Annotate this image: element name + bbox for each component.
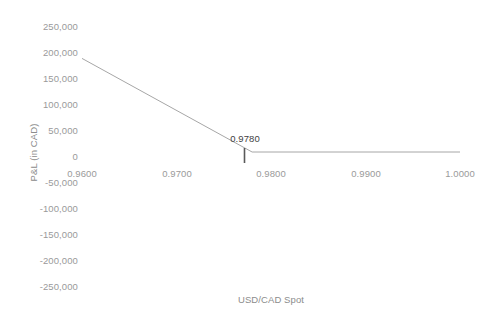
x-tick-label: 1.0000 [445, 168, 475, 179]
y-tick-label: 50,000 [4, 126, 78, 136]
x-tick-label: 0.9900 [351, 168, 381, 179]
plot-area [82, 14, 460, 302]
pnl-payoff-chart: P&L (in CAD) 250,000 200,000 150,000 100… [0, 0, 483, 321]
y-axis-tick-labels: 250,000 200,000 150,000 100,000 50,000 0… [0, 0, 78, 321]
x-axis-tick-labels: 0.9600 0.9700 0.9800 0.9900 1.0000 [0, 168, 483, 182]
strike-marker-icon [241, 148, 248, 164]
x-tick-label: 0.9700 [162, 168, 192, 179]
y-tick-label: 0 [4, 152, 78, 162]
series-line-pnl [82, 14, 460, 302]
pnl-line-path [82, 58, 460, 152]
y-tick-label: 250,000 [4, 22, 78, 32]
y-tick-label: -250,000 [4, 282, 78, 292]
y-tick-label: -100,000 [4, 204, 78, 214]
y-tick-label: 200,000 [4, 48, 78, 58]
y-tick-label: -150,000 [4, 230, 78, 240]
y-tick-label: 100,000 [4, 100, 78, 110]
x-tick-label: 0.9600 [67, 168, 97, 179]
strike-annotation-label: 0.9780 [230, 133, 260, 144]
x-tick-label: 0.9800 [256, 168, 286, 179]
y-tick-label: 150,000 [4, 74, 78, 84]
x-axis-title: USD/CAD Spot [82, 294, 460, 305]
y-tick-label: -200,000 [4, 256, 78, 266]
